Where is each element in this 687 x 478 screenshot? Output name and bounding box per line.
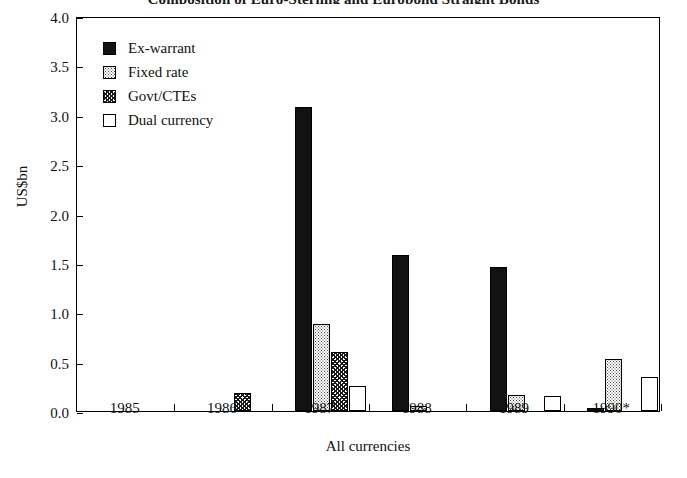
legend-item-label: Govt/CTEs: [128, 88, 196, 105]
chart-title: Composition of Euro-Sterling and Eurobon…: [0, 0, 687, 4]
bar-ex-warrant-1988: [392, 255, 409, 411]
x-tick-mark: [564, 404, 565, 411]
dotted-swatch-icon: [103, 66, 116, 79]
y-tick-mark: [77, 364, 83, 365]
y-tick-mark: [77, 117, 83, 118]
x-tick-label: 1990*: [566, 400, 656, 417]
x-tick-mark: [272, 404, 273, 411]
x-tick-label: 1987: [274, 400, 364, 417]
x-tick-label: 1988: [372, 400, 462, 417]
chart-legend: Ex-warrant Fixed rate Govt/CTEs Dual cur…: [103, 36, 213, 132]
bar-ex-warrant-1987: [295, 107, 312, 411]
x-tick-label: 1986: [177, 400, 267, 417]
y-tick-mark: [77, 265, 83, 266]
y-tick-label: 2.5: [25, 161, 69, 171]
x-axis-label: All currencies: [76, 438, 660, 455]
y-tick-label: 3.0: [25, 112, 69, 122]
bar-chart-figure: Composition of Euro-Sterling and Eurobon…: [0, 0, 687, 478]
legend-item-label: Ex-warrant: [128, 40, 195, 57]
x-tick-mark: [661, 404, 662, 411]
y-tick-mark: [77, 166, 83, 167]
y-tick-label: 0.5: [25, 359, 69, 369]
legend-item-label: Fixed rate: [128, 64, 188, 81]
y-tick-label: 0.0: [25, 408, 69, 418]
legend-item: Govt/CTEs: [103, 84, 213, 108]
y-tick-mark: [77, 67, 83, 68]
bar-ex-warrant-1989: [490, 267, 507, 411]
legend-item-label: Dual currency: [128, 112, 213, 129]
y-tick-label: 4.0: [25, 13, 69, 23]
legend-item: Dual currency: [103, 108, 213, 132]
solid-black-swatch-icon: [103, 42, 116, 55]
y-tick-mark: [77, 314, 83, 315]
y-tick-mark: [77, 216, 83, 217]
bar-fixed-rate-1987: [313, 324, 330, 411]
x-tick-mark: [369, 404, 370, 411]
plot-area: 0.00.51.01.52.02.53.03.54.0 Ex-warrant F…: [76, 17, 660, 412]
outline-swatch-icon: [103, 114, 116, 127]
y-tick-label: 1.5: [25, 260, 69, 270]
legend-item: Fixed rate: [103, 60, 213, 84]
y-tick-label: 2.0: [25, 211, 69, 221]
y-tick-label: 1.0: [25, 309, 69, 319]
hatched-swatch-icon: [103, 90, 116, 103]
x-tick-label: 1985: [80, 400, 170, 417]
x-tick-mark: [174, 404, 175, 411]
x-tick-mark: [466, 404, 467, 411]
x-tick-label: 1989: [469, 400, 559, 417]
y-tick-label: 3.5: [25, 62, 69, 72]
y-tick-mark: [77, 18, 83, 19]
legend-item: Ex-warrant: [103, 36, 213, 60]
